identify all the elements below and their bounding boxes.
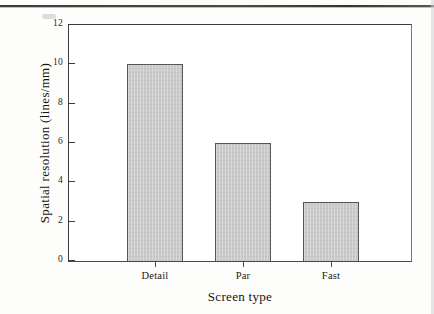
x-axis-tick-label: Fast (322, 270, 340, 281)
y-axis-tick-mark (69, 63, 75, 64)
bar (215, 143, 271, 261)
plot-frame: 024681012DetailParFast Spatial resolutio… (68, 24, 412, 262)
y-axis-tick-mark (69, 142, 75, 143)
bar (303, 202, 359, 261)
x-axis-tick-mark (331, 261, 332, 267)
x-axis-tick-mark (155, 261, 156, 267)
bar (127, 64, 183, 261)
bar-texture (128, 65, 182, 261)
y-axis-tick-label: 12 (53, 18, 63, 28)
x-axis-tick-label: Par (236, 270, 251, 281)
y-axis-tick-mark (69, 103, 75, 104)
bar-texture (304, 203, 358, 261)
y-axis-tick-label: 10 (53, 57, 63, 67)
plot-area: 024681012DetailParFast (69, 25, 411, 261)
scan-artifact-line-secondary (0, 7, 434, 8)
x-axis-tick-mark (243, 261, 244, 267)
bar-texture (216, 144, 270, 261)
figure: 024681012DetailParFast Spatial resolutio… (0, 0, 434, 314)
y-axis-label: Spatial resolution (lines/mm) (37, 63, 53, 223)
y-axis-tick-mark (69, 260, 75, 261)
y-axis-tick-label: 4 (58, 175, 63, 185)
x-axis-label: Screen type (68, 289, 412, 305)
y-axis-tick-mark (69, 24, 75, 25)
y-axis-tick-label: 6 (58, 136, 63, 146)
y-axis-tick-mark (69, 221, 75, 222)
y-axis-tick-label: 0 (58, 254, 63, 264)
y-axis-tick-label: 8 (58, 97, 63, 107)
y-axis-tick-label: 2 (58, 215, 63, 225)
y-axis-tick-mark (69, 181, 75, 182)
x-axis-tick-label: Detail (142, 270, 169, 281)
